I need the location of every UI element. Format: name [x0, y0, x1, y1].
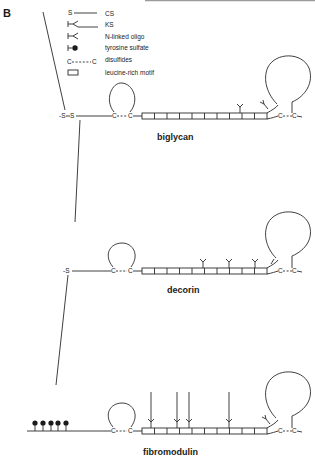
cs-chain-line — [75, 120, 80, 222]
legend-symbol-c: C — [92, 58, 97, 65]
disulfide-loop — [266, 56, 311, 113]
ks-chain-icon — [148, 392, 154, 428]
leucine-rich-repeats — [142, 428, 267, 434]
legend-item-ks: KS — [68, 21, 114, 28]
disulfide-loop — [266, 212, 311, 268]
ks-chain-icon — [68, 21, 98, 27]
disulfide-loop — [108, 403, 135, 427]
tyrosine-sulfate-icon — [40, 420, 45, 431]
glyph-c: C — [292, 427, 297, 434]
n-linked-oligo-icon — [262, 415, 270, 424]
fibromodulin-diagram: C C C C fibromodulin — [27, 372, 310, 457]
ks-chain-icon — [226, 392, 232, 428]
glyph-c: C — [128, 427, 133, 434]
legend-label: KS — [105, 21, 114, 28]
legend-symbol-s: S — [68, 9, 73, 16]
legend-item-disulfides: C C disulfides — [67, 56, 133, 66]
legend: S CS KS N-linked oligo tyrosine sulfate … — [67, 9, 154, 76]
legend-label: disulfides — [105, 56, 133, 63]
legend-symbol-c: C — [67, 58, 72, 65]
n-linked-oligo-icon — [252, 259, 258, 268]
cs-chain-line — [43, 12, 65, 110]
diagram-canvas: B S CS KS N-linked oligo tyrosine sulfat… — [0, 0, 315, 463]
n-linked-oligo-icon — [68, 33, 78, 39]
glyph-s: -S — [63, 267, 70, 274]
legend-item-tyrosine: tyrosine sulfate — [68, 44, 149, 52]
leucine-rich-repeats — [142, 268, 267, 274]
disulfide-loop — [108, 243, 135, 267]
molecule-label-biglycan: biglycan — [157, 132, 194, 142]
legend-label: CS — [105, 10, 115, 17]
leucine-rich-repeats — [142, 113, 267, 119]
glyph-c: C — [278, 112, 283, 119]
curl — [267, 105, 278, 119]
n-linked-oligo-icon — [237, 104, 243, 113]
cs-chain-line — [56, 275, 68, 385]
glyph-c: C — [112, 112, 117, 119]
legend-item-leucine: leucine-rich motif — [68, 69, 154, 76]
ks-chain-icon — [174, 392, 180, 428]
glyph-s: S — [70, 112, 75, 119]
molecule-label-fibromodulin: fibromodulin — [143, 447, 198, 457]
tyrosine-sulfate-icon — [63, 420, 68, 431]
glyph-s: -S — [59, 112, 66, 119]
tyrosine-sulfate-icon — [32, 420, 37, 431]
leucine-rich-motif-icon — [68, 70, 78, 75]
glyph-c: C — [111, 427, 116, 434]
legend-label: N-linked oligo — [105, 33, 145, 41]
n-linked-oligo-icon — [226, 259, 232, 268]
legend-label: tyrosine sulfate — [105, 44, 149, 52]
glyph-c: C — [128, 267, 133, 274]
decorin-diagram: -S C C C C decorin — [63, 212, 310, 295]
disulfide-loop — [266, 372, 311, 428]
glyph-c: C — [278, 427, 283, 434]
tyrosine-sulfate-icon — [48, 420, 53, 431]
biglycan-diagram: -S S C C C C biglycan — [59, 56, 310, 142]
legend-label: leucine-rich motif — [105, 69, 154, 76]
glyph-c: C — [111, 267, 116, 274]
disulfide-loop — [109, 83, 134, 112]
glyph-c: C — [278, 267, 283, 274]
glyph-c: C — [292, 267, 297, 274]
n-linked-oligo-icon — [200, 259, 206, 268]
n-linked-oligo-icon — [271, 259, 274, 264]
legend-item-n-linked: N-linked oligo — [68, 33, 145, 41]
ks-chain-icon — [186, 392, 192, 428]
glyph-c: C — [292, 112, 297, 119]
tyrosine-sulfate-icon — [55, 420, 60, 431]
tyrosine-sulfates — [32, 420, 68, 431]
glyph-c: C — [128, 112, 133, 119]
panel-label: B — [3, 7, 11, 19]
molecule-label-decorin: decorin — [167, 285, 200, 295]
n-linked-oligo-icon — [260, 100, 268, 109]
legend-item-cs: S CS — [68, 9, 115, 17]
tyrosine-sulfate-icon — [68, 45, 72, 51]
